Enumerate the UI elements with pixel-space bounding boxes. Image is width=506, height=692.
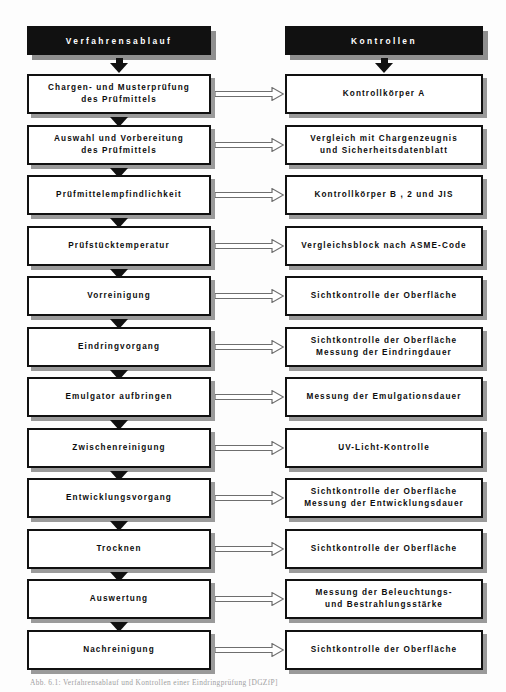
flow-arrow-down (110, 58, 128, 73)
control-step-label-line2: und Sicherheitsdatenblatt (291, 145, 477, 157)
control-link-arrow (215, 441, 284, 455)
arrow-head (110, 63, 128, 73)
process-step-box: Entwicklungsvorgang (27, 478, 211, 518)
control-step-box: Vergleichsblock nach ASME-Code (285, 226, 483, 266)
flow-arrow-down (110, 622, 128, 629)
flow-arrow-down (110, 572, 128, 579)
control-step-label: Vergleichsblock nach ASME-Code (291, 240, 477, 252)
control-link-arrow (215, 390, 284, 404)
column-header-controls-label: Kontrollen (291, 35, 477, 47)
control-link-arrow (215, 491, 284, 505)
control-step-box: UV-Licht-Kontrolle (285, 428, 483, 468)
control-step-label: Messung der Emulgationsdauer (291, 391, 477, 403)
control-step-label: Vergleich mit Chargenzeugnisund Sicherhe… (291, 133, 477, 157)
process-step-label: Zwischenreinigung (33, 442, 205, 454)
control-link-arrow (215, 87, 284, 101)
process-step-box: Zwischenreinigung (27, 428, 211, 468)
flow-arrow-down (110, 319, 128, 326)
control-step-label: UV-Licht-Kontrolle (291, 442, 477, 454)
flow-arrow-down (110, 420, 128, 427)
control-step-label-line2: Messung der Entwicklungsdauer (291, 498, 477, 510)
flow-arrow-down (110, 370, 128, 377)
process-step-label: Auswertung (33, 593, 205, 605)
control-step-box: Messung der Beleuchtungs-und Bestrahlung… (285, 579, 483, 619)
control-step-label-line2: Messung der Eindringdauer (291, 347, 477, 359)
process-step-box: Trocknen (27, 529, 211, 569)
control-step-box: Messung der Emulgationsdauer (285, 377, 483, 417)
process-step-box: Emulgator aufbringen (27, 377, 211, 417)
process-step-label-line2: des Prüfmittels (33, 94, 205, 106)
figure-caption: Abb. 6.1: Verfahrensablauf und Kontrolle… (30, 678, 480, 687)
control-step-label: Sichtkontrolle der Oberfläche (291, 644, 477, 656)
control-link-arrow (215, 138, 284, 152)
process-step-box: Prüfstücktemperatur (27, 226, 211, 266)
control-link-arrow (215, 239, 284, 253)
control-link-arrow (215, 188, 284, 202)
process-step-label: Emulgator aufbringen (33, 391, 205, 403)
flow-arrow-down (110, 218, 128, 225)
control-step-label: Messung der Beleuchtungs-und Bestrahlung… (291, 587, 477, 611)
process-step-label: Prüfstücktemperatur (33, 240, 205, 252)
process-step-box: Eindringvorgang (27, 327, 211, 367)
control-step-box: Kontrollkörper B , 2 und JIS (285, 175, 483, 215)
flow-arrow-down (110, 521, 128, 528)
control-step-label: Sichtkontrolle der OberflächeMessung der… (291, 486, 477, 510)
control-step-box: Sichtkontrolle der Oberfläche (285, 630, 483, 670)
process-step-box: Prüfmittelempfindlichkeit (27, 175, 211, 215)
flow-arrow-down (110, 117, 128, 124)
flow-arrow-down (110, 471, 128, 478)
process-step-label: Nachreinigung (33, 644, 205, 656)
arrow-head (375, 63, 393, 73)
control-link-arrow (215, 643, 284, 657)
flow-arrow-down (110, 269, 128, 276)
control-step-label: Sichtkontrolle der Oberfläche (291, 290, 477, 302)
flowchart-canvas: Verfahrensablauf Kontrollen Chargen- und… (0, 0, 506, 692)
control-step-label: Kontrollkörper B , 2 und JIS (291, 189, 477, 201)
control-link-arrow (215, 289, 284, 303)
process-step-label: Eindringvorgang (33, 341, 205, 353)
control-link-arrow (215, 542, 284, 556)
process-step-label-line2: des Prüfmittels (33, 145, 205, 157)
process-step-label: Chargen- und Musterprüfungdes Prüfmittel… (33, 82, 205, 106)
process-step-label: Trocknen (33, 543, 205, 555)
control-step-box: Sichtkontrolle der Oberfläche (285, 276, 483, 316)
control-step-box: Kontrollkörper A (285, 74, 483, 114)
process-step-label: Vorreinigung (33, 290, 205, 302)
control-step-label: Sichtkontrolle der Oberfläche (291, 543, 477, 555)
process-step-label: Auswahl und Vorbereitungdes Prüfmittels (33, 133, 205, 157)
column-header-controls: Kontrollen (285, 26, 483, 55)
control-step-box: Vergleich mit Chargenzeugnisund Sicherhe… (285, 125, 483, 165)
control-step-box: Sichtkontrolle der Oberfläche (285, 529, 483, 569)
process-step-box: Auswertung (27, 579, 211, 619)
control-step-label: Kontrollkörper A (291, 88, 477, 100)
flow-arrow-down (110, 168, 128, 175)
process-step-box: Vorreinigung (27, 276, 211, 316)
process-step-label: Entwicklungsvorgang (33, 492, 205, 504)
process-step-box: Chargen- und Musterprüfungdes Prüfmittel… (27, 74, 211, 114)
process-step-box: Auswahl und Vorbereitungdes Prüfmittels (27, 125, 211, 165)
column-header-process-label: Verfahrensablauf (33, 35, 205, 47)
flow-arrow-down (375, 58, 393, 73)
control-step-label-line2: und Bestrahlungsstärke (291, 599, 477, 611)
control-step-label: Sichtkontrolle der OberflächeMessung der… (291, 335, 477, 359)
column-header-process: Verfahrensablauf (27, 26, 211, 55)
control-step-box: Sichtkontrolle der OberflächeMessung der… (285, 327, 483, 367)
control-step-box: Sichtkontrolle der OberflächeMessung der… (285, 478, 483, 518)
process-step-box: Nachreinigung (27, 630, 211, 670)
control-link-arrow (215, 592, 284, 606)
control-link-arrow (215, 340, 284, 354)
process-step-label: Prüfmittelempfindlichkeit (33, 189, 205, 201)
